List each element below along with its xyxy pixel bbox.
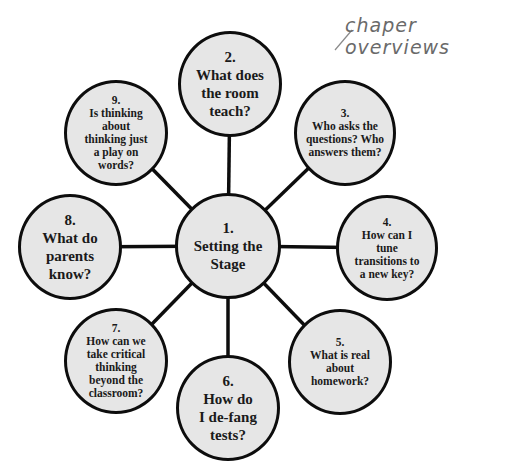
node-label: Is thinking about thinking just a play o… <box>67 107 165 172</box>
handwritten-annotation: chaper overviews <box>345 14 516 58</box>
node-4: 4. How can I tune transitions to a new k… <box>336 195 438 301</box>
node-number: 5. <box>336 336 345 349</box>
spoke-diagram: chaper overviews 1. Setting the Stage 2.… <box>0 0 516 476</box>
node-number: 4. <box>383 216 392 229</box>
node-3: 3. Who asks the questions? Who answers t… <box>294 80 396 186</box>
node-number: 2. <box>224 48 235 66</box>
node-8: 8. What do parents know? <box>18 194 122 300</box>
node-label: What does the room teach? <box>181 66 279 120</box>
node-number: 9. <box>112 94 121 107</box>
node-7: 7. How can we take critical thinking bey… <box>64 308 168 414</box>
node-6: 6. How do I de-fang tests? <box>176 355 280 461</box>
node-2: 2. What does the room teach? <box>178 31 282 137</box>
node-number: 1. <box>222 219 233 237</box>
node-label: How do I de-fang tests? <box>179 390 277 444</box>
node-label: How can we take critical thinking beyond… <box>67 335 165 400</box>
node-number: 7. <box>112 322 121 335</box>
node-number: 8. <box>64 211 75 229</box>
node-label: What is real about homework? <box>291 349 389 388</box>
node-center: 1. Setting the Stage <box>175 193 281 299</box>
node-label: How can I tune transitions to a new key? <box>339 229 435 281</box>
node-label: Who asks the questions? Who answers them… <box>297 120 393 159</box>
node-label: What do parents know? <box>21 229 119 283</box>
node-label: Setting the Stage <box>178 237 278 273</box>
node-9: 9. Is thinking about thinking just a pla… <box>64 80 168 186</box>
node-number: 6. <box>222 372 233 390</box>
node-5: 5. What is real about homework? <box>288 309 392 415</box>
node-number: 3. <box>341 107 350 120</box>
